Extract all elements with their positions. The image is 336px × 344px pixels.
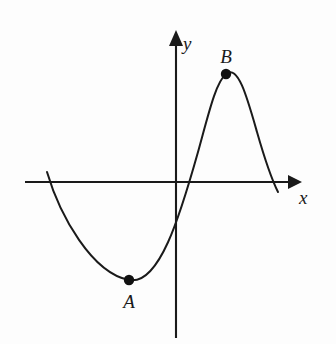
figure-canvas: A B y x [0,0,336,344]
y-axis [169,30,183,338]
point-label-b: B [220,46,232,67]
y-axis-label: y [181,33,192,54]
cubic-curve [47,72,278,280]
point-marker-b [221,69,231,79]
cubic-graph-svg: A B y x [0,0,336,344]
x-axis-label: x [298,187,308,208]
y-axis-arrowhead [169,30,183,46]
x-axis [25,175,302,189]
point-marker-a [124,275,134,285]
point-label-a: A [121,291,135,312]
